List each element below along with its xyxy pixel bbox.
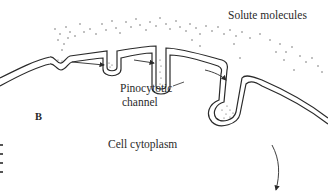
label-pinocytotic: Pinocytotic [120, 83, 172, 95]
panel-label: B [35, 112, 42, 123]
arrow-stage1-to-2 [72, 62, 104, 65]
arrow-stage3-to-4 [205, 70, 226, 80]
edge-mark [0, 171, 3, 173]
label-channel: channel [122, 97, 158, 109]
arrow-stage2-to-3 [134, 60, 154, 63]
diagram-canvas [0, 0, 328, 194]
edge-mark [0, 162, 3, 164]
label-cell-cytoplasm: Cell cytoplasm [108, 139, 177, 151]
label-solute-molecules: Solute molecules [228, 10, 307, 22]
cropped-edge-marks [0, 144, 4, 180]
pinocytosis-diagram: Solute molecules Pinocytotic channel B C… [0, 0, 328, 194]
channel-leader-line [173, 82, 184, 86]
edge-mark [0, 144, 3, 146]
arrow-into-cytoplasm [272, 145, 279, 190]
edge-mark [0, 153, 3, 155]
